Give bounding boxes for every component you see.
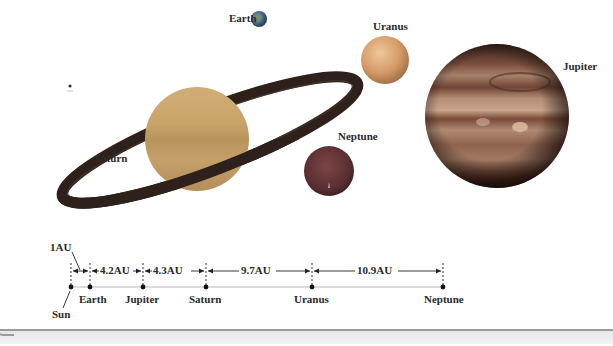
distance-scale — [63, 252, 445, 308]
scale-label-jupiter: Jupiter — [125, 293, 159, 305]
tiny-body-dot — [67, 84, 73, 91]
gap-label-sun-earth: 1AU — [50, 241, 71, 253]
gap-label-uranus-neptune: 10.9AU — [357, 264, 392, 276]
gap-label-earth-jupiter: 4.2AU — [100, 264, 130, 276]
gap-label-jupiter-saturn: 4.3AU — [153, 264, 183, 276]
gap-label-saturn-uranus: 9.7AU — [241, 264, 271, 276]
scale-label-saturn: Saturn — [189, 293, 221, 305]
figure-frame-bottom — [0, 329, 613, 344]
planet-saturn — [52, 55, 369, 224]
planet-neptune — [304, 146, 354, 196]
label-jupiter: Jupiter — [563, 60, 597, 72]
scale-label-earth: Earth — [79, 293, 107, 305]
figure-frame-corner — [0, 320, 14, 336]
planet-uranus — [361, 36, 409, 84]
label-earth: Earth — [229, 12, 257, 24]
label-neptune: Neptune — [338, 130, 378, 142]
scale-label-uranus: Uranus — [294, 293, 329, 305]
label-uranus: Uranus — [373, 20, 408, 32]
scale-label-neptune: Neptune — [424, 293, 464, 305]
scale-label-sun: Sun — [52, 308, 70, 320]
planet-jupiter — [425, 44, 569, 188]
label-saturn: Saturn — [95, 152, 127, 164]
